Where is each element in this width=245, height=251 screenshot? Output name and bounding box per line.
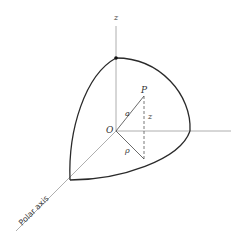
top-point xyxy=(114,56,118,60)
diagram-canvas: z O P a z ρ Polar axis xyxy=(0,0,245,251)
point-p-label: P xyxy=(140,85,148,95)
polar-axis-label: Polar axis xyxy=(17,194,51,228)
origin-label: O xyxy=(106,125,114,135)
arc-top-to-polar xyxy=(70,58,116,180)
radius-line-a xyxy=(116,96,144,131)
radius-a-label: a xyxy=(125,109,130,118)
height-z-label: z xyxy=(147,112,153,121)
arc-top-to-right xyxy=(116,58,190,131)
rho-line xyxy=(116,131,144,159)
arc-polar-to-right xyxy=(70,131,190,180)
z-axis-label: z xyxy=(113,13,119,22)
rho-label: ρ xyxy=(124,146,130,155)
